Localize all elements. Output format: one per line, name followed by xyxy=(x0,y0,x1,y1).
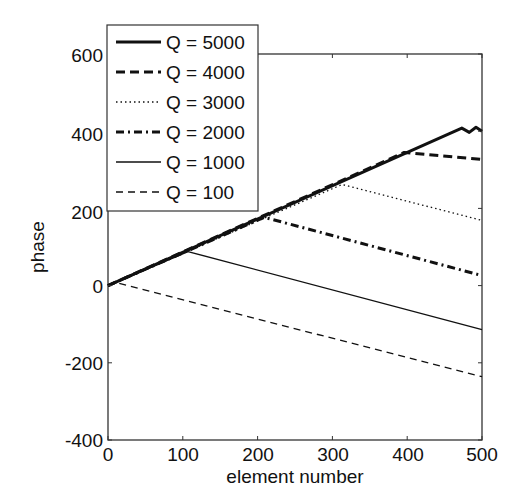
x-tick-200: 200 xyxy=(242,444,274,465)
legend-label-q100: Q = 100 xyxy=(166,182,234,203)
y-axis-label: phase xyxy=(27,221,48,273)
y-tick-200: 200 xyxy=(71,202,103,223)
phase-chart: 0 100 200 300 400 500 -400 -200 0 200 40… xyxy=(0,0,524,500)
legend-label-q5000: Q = 5000 xyxy=(166,32,245,53)
x-tick-labels: 0 100 200 300 400 500 xyxy=(103,444,498,465)
y-tick-neg400: -400 xyxy=(65,430,103,451)
y-tick-400: 400 xyxy=(71,124,103,145)
y-tick-neg200: -200 xyxy=(65,353,103,374)
x-tick-0: 0 xyxy=(103,444,114,465)
x-tick-500: 500 xyxy=(466,444,498,465)
x-tick-400: 400 xyxy=(392,444,424,465)
legend: Q = 5000 Q = 4000 Q = 3000 Q = 2000 Q = … xyxy=(107,25,258,211)
y-tick-labels: -400 -200 0 200 400 600 xyxy=(65,45,103,451)
legend-label-q4000: Q = 4000 xyxy=(166,62,245,83)
legend-label-q3000: Q = 3000 xyxy=(166,92,245,113)
y-tick-600: 600 xyxy=(71,45,103,66)
x-tick-100: 100 xyxy=(167,444,199,465)
legend-label-q1000: Q = 1000 xyxy=(166,152,245,173)
y-tick-0: 0 xyxy=(92,276,103,297)
legend-label-q2000: Q = 2000 xyxy=(166,122,245,143)
x-tick-300: 300 xyxy=(317,444,349,465)
x-axis-label: element number xyxy=(226,466,364,487)
